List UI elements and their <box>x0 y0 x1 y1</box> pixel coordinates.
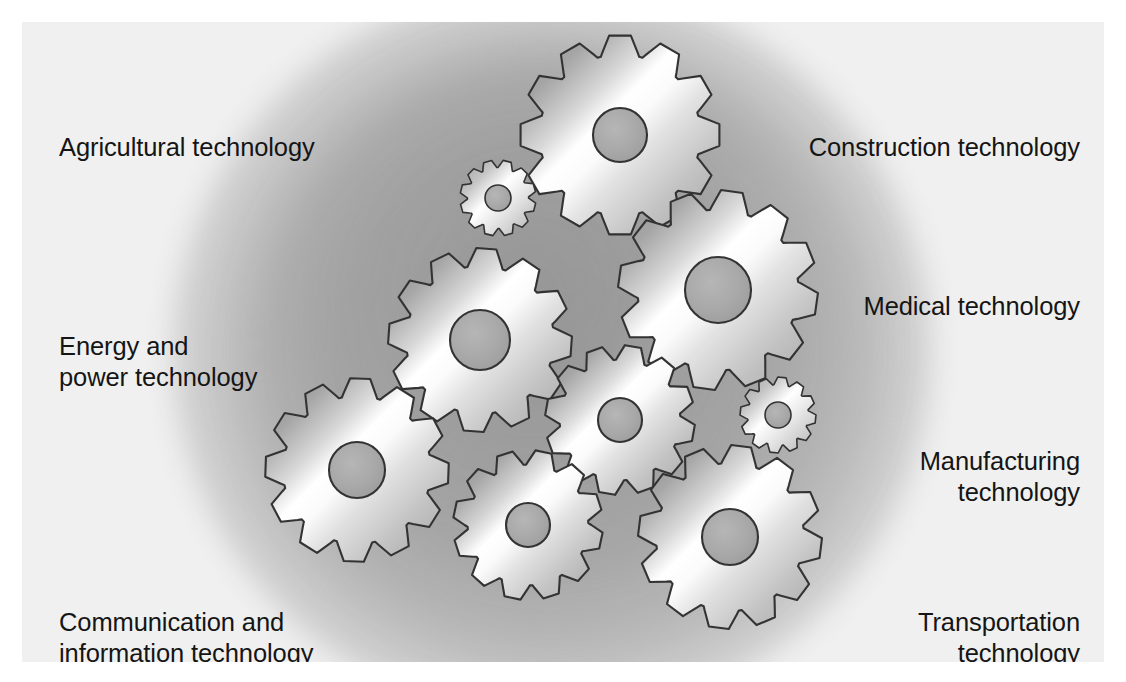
label-construction-technology: Construction technology <box>809 132 1080 163</box>
label-manufacturing-technology: Manufacturing technology <box>920 446 1080 508</box>
gear-left-hub <box>329 442 385 498</box>
label-communication-and-information-technology: Communication and information technology <box>59 607 313 662</box>
gear-bottom-center-hub <box>506 503 550 547</box>
gear-small-upper-hub <box>485 185 511 211</box>
label-agricultural-technology: Agricultural technology <box>59 132 315 163</box>
gear-small-right-hub <box>765 402 791 428</box>
gear-mid-left-hub <box>450 310 510 370</box>
gear-right <box>618 190 818 390</box>
gear-bottom-center <box>453 450 602 599</box>
gear-small-right <box>740 377 816 453</box>
gear-center-hub <box>598 398 642 442</box>
label-medical-technology: Medical technology <box>864 291 1081 322</box>
diagram-canvas: Agricultural technology Energy and power… <box>0 0 1126 682</box>
label-transportation-technology: Transportation technology <box>918 607 1080 662</box>
label-energy-and-power-technology: Energy and power technology <box>59 331 257 393</box>
gear-top-hub <box>593 108 647 162</box>
gear-lower-right-hub <box>702 509 758 565</box>
gear-small-upper <box>460 160 535 235</box>
diagram-panel: Agricultural technology Energy and power… <box>22 22 1104 662</box>
gear-right-hub <box>685 257 751 323</box>
gear-mid-left <box>388 248 572 432</box>
